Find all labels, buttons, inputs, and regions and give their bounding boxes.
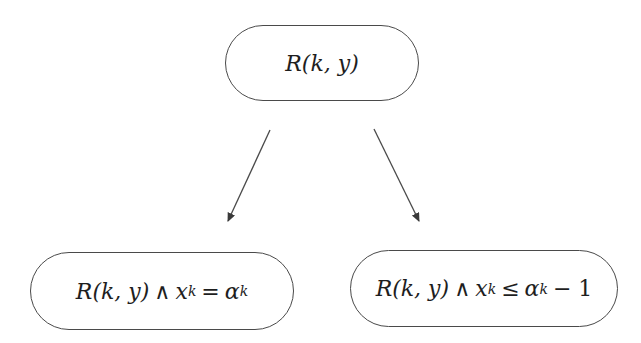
right-and-operator: ∧: [454, 276, 470, 301]
right-variable: x: [475, 276, 487, 301]
edge-root-to-right: [374, 129, 419, 221]
left-rhs-subscript: k: [240, 283, 248, 299]
left-child-node: R(k, y) ∧ xk = αk: [30, 252, 294, 330]
right-variable-subscript: k: [488, 281, 496, 297]
root-args: (k, y): [302, 51, 359, 76]
right-predicate: R: [376, 276, 393, 301]
right-rhs: α: [525, 276, 540, 301]
right-tail: − 1: [553, 276, 592, 301]
left-args: (k, y): [92, 279, 149, 304]
right-rhs-subscript: k: [539, 281, 547, 297]
left-relation: =: [201, 279, 219, 304]
root-node: R(k, y): [225, 25, 419, 101]
right-child-node: R(k, y) ∧ xk ≤ αk − 1: [350, 250, 618, 327]
left-and-operator: ∧: [154, 279, 170, 304]
left-predicate: R: [76, 279, 93, 304]
root-predicate: R: [285, 51, 302, 76]
left-variable-subscript: k: [188, 283, 196, 299]
edge-root-to-left: [228, 130, 270, 221]
right-args: (k, y): [392, 276, 449, 301]
right-relation: ≤: [501, 276, 519, 301]
left-rhs: α: [225, 279, 240, 304]
left-variable: x: [175, 279, 187, 304]
